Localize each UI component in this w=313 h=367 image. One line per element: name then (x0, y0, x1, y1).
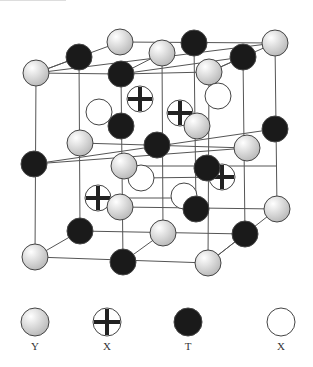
atom-y-icon (184, 113, 210, 139)
atom-y-icon (150, 220, 176, 246)
atom-t-icon (194, 155, 220, 181)
atom-y-icon (107, 29, 133, 55)
atom-t-icon (230, 44, 256, 70)
atom-y-icon (234, 135, 260, 161)
atom-t-icon (174, 308, 202, 336)
legend-label: Y (31, 340, 39, 352)
atom-t-icon (66, 44, 92, 70)
atom-y-icon (264, 196, 290, 222)
atom-t-icon (262, 116, 288, 142)
atom-x-open-icon (267, 308, 295, 336)
atom-x-open-icon (205, 83, 231, 109)
atom-t-icon (232, 221, 258, 247)
legend-label: T (185, 340, 192, 352)
atom-y-icon (67, 130, 93, 156)
atom-y-icon (262, 30, 288, 56)
atom-x-cross-icon (93, 308, 121, 336)
atom-y-icon (149, 40, 175, 66)
legend-label: X (277, 340, 285, 352)
atom-x-cross-icon (127, 86, 153, 112)
legend (21, 308, 295, 336)
lattice-atoms (21, 29, 290, 276)
atom-y-icon (195, 250, 221, 276)
atom-y-icon (196, 59, 222, 85)
atom-y-icon (23, 60, 49, 86)
atom-y-icon (21, 308, 49, 336)
atom-t-icon (21, 151, 47, 177)
atom-y-icon (107, 194, 133, 220)
atom-t-icon (67, 218, 93, 244)
legend-label: X (103, 340, 111, 352)
atom-t-icon (144, 132, 170, 158)
atom-y-icon (22, 244, 48, 270)
atom-y-icon (111, 153, 137, 179)
crystal-lattice-diagram (0, 0, 313, 367)
atom-x-open-icon (86, 99, 112, 125)
atom-t-icon (181, 30, 207, 56)
atom-t-icon (110, 249, 136, 275)
atom-t-icon (183, 196, 209, 222)
atom-t-icon (108, 113, 134, 139)
atom-t-icon (108, 61, 134, 87)
